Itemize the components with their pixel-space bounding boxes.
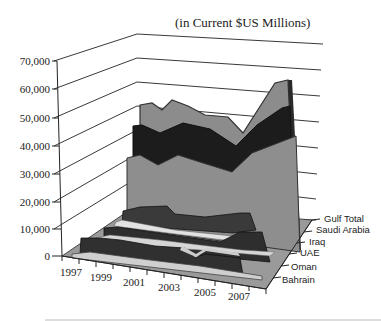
depth-label-bahrain: Bahrain bbox=[282, 274, 315, 285]
y-tick-label: 30,000 bbox=[20, 168, 51, 180]
x-tick-label: 1999 bbox=[90, 271, 113, 283]
depth-label-gulf-total: Gulf Total bbox=[324, 213, 364, 224]
y-axis: 70,000 60,000 50,000 40,000 30,000 20,00… bbox=[20, 55, 62, 262]
chart: (in Current $US Millions) 70,000 60,000 … bbox=[0, 0, 381, 321]
y-tick-label: 10,000 bbox=[20, 223, 51, 235]
x-tick-label: 2003 bbox=[158, 281, 181, 293]
x-tick-label: 2001 bbox=[123, 276, 145, 288]
y-tick-label: 0 bbox=[45, 250, 51, 262]
depth-label-oman: Oman bbox=[291, 261, 317, 272]
depth-label-saudi-arabia: Saudi Arabia bbox=[316, 224, 371, 235]
x-tick-label: 2005 bbox=[194, 286, 217, 298]
y-tick-label: 40,000 bbox=[20, 140, 51, 152]
chart-title: (in Current $US Millions) bbox=[175, 15, 310, 30]
y-tick-label: 50,000 bbox=[20, 112, 51, 124]
y-tick-label: 70,000 bbox=[20, 55, 51, 67]
x-tick-label: 1997 bbox=[60, 266, 83, 278]
y-tick-label: 20,000 bbox=[20, 196, 51, 208]
depth-label-uae: UAE bbox=[300, 247, 320, 258]
y-tick-label: 60,000 bbox=[20, 83, 51, 95]
depth-label-iraq: Iraq bbox=[309, 236, 325, 247]
x-tick-label: 2007 bbox=[228, 290, 251, 302]
